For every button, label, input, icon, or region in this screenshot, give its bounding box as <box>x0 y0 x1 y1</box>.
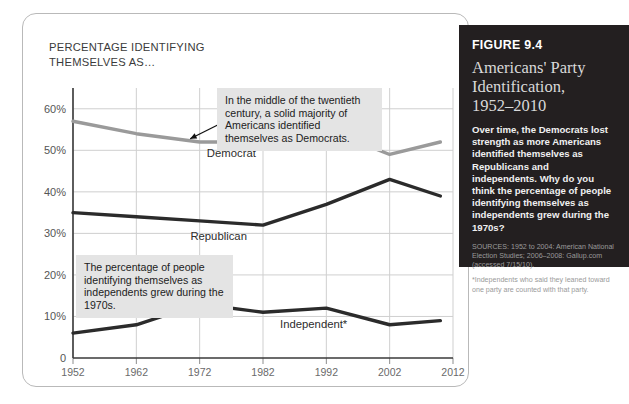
x-axis-tick-label: 1972 <box>188 366 211 378</box>
x-axis-tick-label: 2002 <box>378 366 401 378</box>
y-axis-tick-label: 0 <box>60 352 66 364</box>
y-axis-tick-label: 30% <box>44 227 66 239</box>
callout-democrat: In the middle of the twentieth century, … <box>217 88 382 151</box>
figure-title: Americans' Party Identification, 1952–20… <box>472 58 616 115</box>
x-axis-tick-label: 1992 <box>315 366 338 378</box>
series-label-independent: Independent* <box>280 318 347 330</box>
y-axis-tick-label: 20% <box>44 269 66 281</box>
chart-axis-title: PERCENTAGE IDENTIFYING THEMSELVES AS… <box>49 40 205 70</box>
chart-card: PERCENTAGE IDENTIFYING THEMSELVES AS… 01… <box>22 13 469 387</box>
figure-body-text: Over time, the Democrats lost strength a… <box>472 124 616 234</box>
series-label-republican: Republican <box>190 230 247 242</box>
y-axis-tick-label: 40% <box>44 186 66 198</box>
figure-footnote: *Independents who said they leaned towar… <box>472 276 616 294</box>
figure-number: FIGURE 9.4 <box>472 38 616 52</box>
callout-independent: The percentage of people identifying the… <box>76 255 233 318</box>
figure-caption-panel: FIGURE 9.4 Americans' Party Identificati… <box>459 25 629 267</box>
x-axis-tick-label: 1952 <box>61 366 84 378</box>
y-axis-tick-label: 10% <box>44 310 66 322</box>
x-axis-tick-label: 2012 <box>441 366 464 378</box>
x-axis-tick-label: 1982 <box>251 366 274 378</box>
y-axis-tick-label: 50% <box>44 144 66 156</box>
y-axis-tick-label: 60% <box>44 103 66 115</box>
figure-sources: SOURCES: 1952 to 2004: American National… <box>472 243 616 271</box>
figure-root: PERCENTAGE IDENTIFYING THEMSELVES AS… 01… <box>0 0 629 404</box>
x-axis-tick-label: 1962 <box>125 366 148 378</box>
